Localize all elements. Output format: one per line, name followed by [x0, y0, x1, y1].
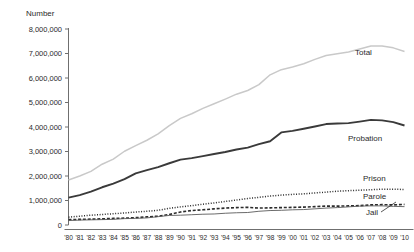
series-labels: TotalProbationPrisonParoleJail	[348, 48, 396, 217]
x-tick-label: '92	[199, 234, 208, 241]
series-line-total	[69, 46, 405, 180]
x-tick-label: '10	[400, 234, 409, 241]
x-tick-label: '88	[154, 234, 163, 241]
x-tick-label: '84	[109, 234, 118, 241]
y-tick-label: 5,000,000	[29, 98, 62, 107]
x-tick-label: '07	[367, 234, 376, 241]
x-axis-ticks: '80'81'82'83'84'85'86'87'88'89'90'91'92'…	[64, 234, 409, 241]
x-tick-label: '80	[64, 234, 73, 241]
x-tick-label: '05	[344, 234, 353, 241]
x-tick-label: '90	[176, 234, 185, 241]
y-axis-title: Number	[26, 9, 55, 18]
x-tick-label: '97	[255, 234, 264, 241]
series-label-probation: Probation	[348, 134, 382, 143]
x-tick-label: '85	[120, 234, 129, 241]
series-label-jail: Jail	[366, 208, 378, 217]
y-tick-label: 3,000,000	[29, 147, 62, 156]
x-tick-label: '83	[98, 234, 107, 241]
y-tick-label: 2,000,000	[29, 172, 62, 181]
x-tick-label: '09	[389, 234, 398, 241]
y-tick-label: 0	[58, 221, 62, 230]
x-tick-label: '03	[322, 234, 331, 241]
x-tick-label: '02	[311, 234, 320, 241]
y-tick-label: 4,000,000	[29, 123, 62, 132]
x-tick-label: '06	[355, 234, 364, 241]
y-tick-label: 1,000,000	[29, 196, 62, 205]
jail-leader-line	[381, 202, 396, 212]
chart-container: Number 8,000,0007,000,0006,000,0005,000,…	[0, 0, 414, 252]
x-tick-label: '94	[221, 234, 230, 241]
y-tick-label: 7,000,000	[29, 49, 62, 58]
line-chart: Number 8,000,0007,000,0006,000,0005,000,…	[0, 0, 414, 252]
x-tick-label: '00	[288, 234, 297, 241]
y-tick-label: 8,000,000	[29, 25, 62, 34]
series-label-total: Total	[355, 48, 372, 57]
y-tick-label: 6,000,000	[29, 74, 62, 83]
x-tick-label: '08	[378, 234, 387, 241]
x-tick-label: '04	[333, 234, 342, 241]
x-tick-label: '89	[165, 234, 174, 241]
x-tick-label: '96	[243, 234, 252, 241]
x-tick-label: '91	[187, 234, 196, 241]
x-tick-label: '86	[131, 234, 140, 241]
series-label-prison: Prison	[363, 174, 386, 183]
axis-lines	[65, 28, 414, 230]
x-tick-label: '87	[143, 234, 152, 241]
x-tick-label: '81	[75, 234, 84, 241]
x-tick-label: '93	[210, 234, 219, 241]
x-tick-label: '01	[299, 234, 308, 241]
x-tick-label: '82	[87, 234, 96, 241]
x-tick-label: '99	[277, 234, 286, 241]
series-label-parole: Parole	[363, 192, 387, 201]
x-tick-label: '98	[266, 234, 275, 241]
y-axis-ticks: 8,000,0007,000,0006,000,0005,000,0004,00…	[29, 25, 69, 230]
x-tick-label: '95	[232, 234, 241, 241]
series-line-probation	[69, 120, 405, 198]
